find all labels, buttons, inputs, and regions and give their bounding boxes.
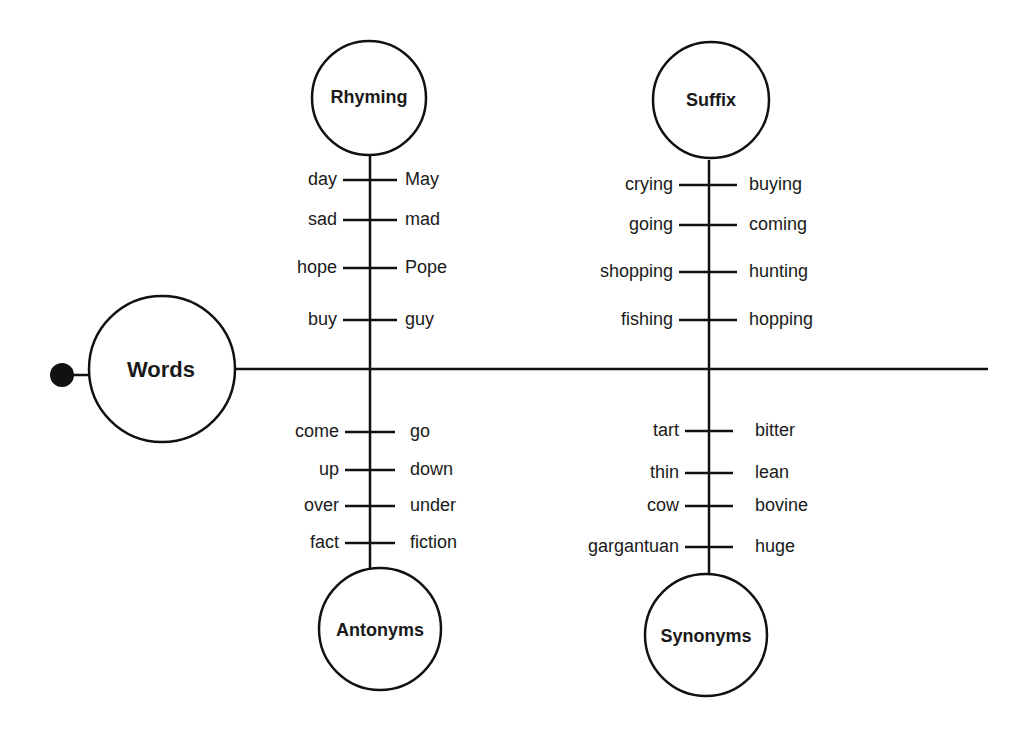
left-word: crying: [625, 174, 673, 194]
right-word: bitter: [755, 420, 795, 440]
left-word: fishing: [621, 309, 673, 329]
left-word: up: [319, 459, 339, 479]
right-word: hopping: [749, 309, 813, 329]
right-word: coming: [749, 214, 807, 234]
start-dot: [50, 363, 74, 387]
root-label: Words: [127, 357, 195, 382]
suffix-label: Suffix: [686, 90, 736, 110]
right-word: May: [405, 169, 439, 189]
rhyming-label: Rhyming: [330, 87, 407, 107]
right-word: hunting: [749, 261, 808, 281]
right-word: guy: [405, 309, 434, 329]
left-word: come: [295, 421, 339, 441]
left-word: thin: [650, 462, 679, 482]
left-word: sad: [308, 209, 337, 229]
antonyms-label: Antonyms: [336, 620, 424, 640]
left-word: buy: [308, 309, 337, 329]
right-word: go: [410, 421, 430, 441]
left-word: hope: [297, 257, 337, 277]
right-word: mad: [405, 209, 440, 229]
right-word: buying: [749, 174, 802, 194]
left-word: shopping: [600, 261, 673, 281]
left-word: going: [629, 214, 673, 234]
right-word: Pope: [405, 257, 447, 277]
right-word: under: [410, 495, 456, 515]
right-word: bovine: [755, 495, 808, 515]
right-word: down: [410, 459, 453, 479]
left-word: over: [304, 495, 339, 515]
left-word: gargantuan: [588, 536, 679, 556]
left-word: fact: [310, 532, 339, 552]
synonyms-label: Synonyms: [660, 626, 751, 646]
right-word: lean: [755, 462, 789, 482]
diagram-svg: Words Rhyming Suffix Antonyms Synonyms d…: [0, 0, 1036, 730]
left-word: day: [308, 169, 337, 189]
right-word: fiction: [410, 532, 457, 552]
left-word: tart: [653, 420, 679, 440]
word-pairs: dayMaysadmadhopePopebuyguycryingbuyinggo…: [295, 169, 813, 556]
left-word: cow: [647, 495, 680, 515]
right-word: huge: [755, 536, 795, 556]
word-fishbone-diagram: Words Rhyming Suffix Antonyms Synonyms d…: [0, 0, 1036, 730]
